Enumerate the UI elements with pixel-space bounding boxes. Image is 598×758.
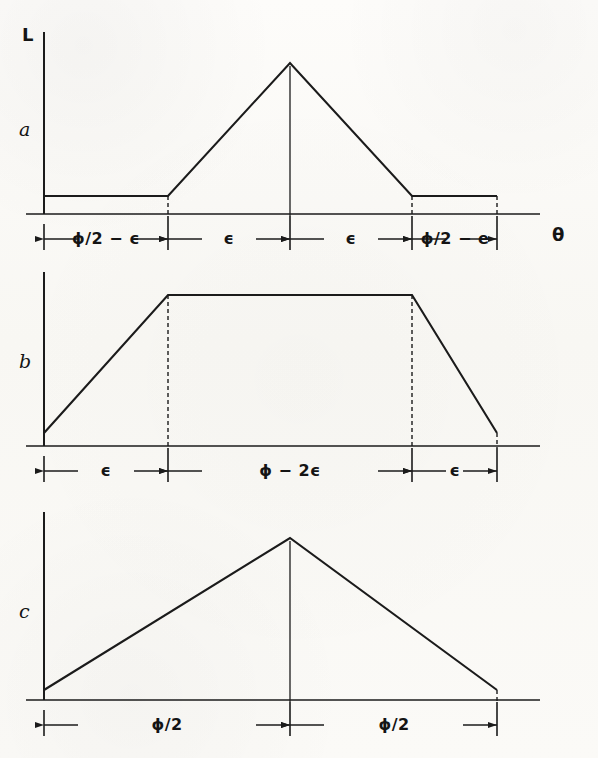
panel-a-dim-label-1: ϕ/2 − ϵ [69, 231, 143, 247]
panel-a-dim-label-3: ϵ [343, 231, 360, 247]
panel-b-dim-label-3: ϵ [447, 463, 464, 479]
panel-c-graphics [26, 512, 540, 736]
panel-c-dimension-bar [44, 702, 497, 736]
panel-a-dim-label-4: ϕ/2 − e [418, 231, 493, 247]
panel-b-waveform [44, 295, 497, 433]
panel-b-graphics [26, 272, 540, 482]
plot-drawing [0, 0, 598, 758]
panel-letter-c: c [19, 602, 30, 621]
x-axis-label: θ [552, 226, 564, 244]
panel-b-dim-label-1: ϵ [98, 463, 115, 479]
figure-canvas: L θ a b c ϕ/2 − ϵ ϵ ϵ ϕ/2 − e ϵ ϕ − 2ϵ ϵ… [0, 0, 598, 758]
panel-letter-a: a [19, 120, 30, 139]
panel-c-waveform [44, 538, 497, 690]
panel-b-dim-label-2: ϕ − 2ϵ [256, 463, 324, 479]
panel-letter-b: b [19, 352, 31, 371]
panel-a-waveform [44, 63, 497, 196]
panel-a-dim-label-2: ϵ [221, 231, 238, 247]
panel-c-dim-label-2: ϕ/2 [375, 717, 412, 733]
y-axis-label: L [22, 26, 33, 44]
panel-c-dim-label-1: ϕ/2 [148, 717, 185, 733]
panel-a-graphics [26, 32, 540, 250]
